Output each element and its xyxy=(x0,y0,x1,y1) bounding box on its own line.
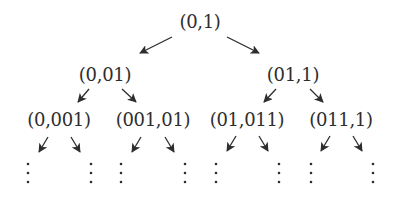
vertical-ellipsis-icon xyxy=(184,163,187,184)
arrow-icon xyxy=(71,137,80,152)
tree-node-label: (01,011) xyxy=(210,109,285,130)
arrow-icon xyxy=(227,37,259,53)
vertical-ellipsis-icon xyxy=(90,163,93,184)
vertical-ellipsis-icon xyxy=(372,163,375,184)
vertical-ellipsis-icon xyxy=(278,163,281,184)
tree-node-label: (001,01) xyxy=(116,109,191,130)
tree-diagram: (0,1)(0,01)(01,1)(0,001)(001,01)(01,011)… xyxy=(0,0,393,198)
arrow-icon xyxy=(132,137,141,152)
arrow-icon xyxy=(78,89,89,102)
vertical-ellipsis-icon xyxy=(120,163,123,184)
tree-node-label: (0,001) xyxy=(27,109,90,130)
arrow-icon xyxy=(310,89,323,102)
arrow-icon xyxy=(353,136,362,151)
tree-node-label: (01,1) xyxy=(267,64,319,85)
arrow-icon xyxy=(165,137,174,152)
tree-node-label: (0,01) xyxy=(79,64,131,85)
arrow-icon xyxy=(264,89,276,102)
tree-node-label: (0,1) xyxy=(179,11,220,32)
arrow-icon xyxy=(140,37,172,53)
vertical-ellipsis-icon xyxy=(310,163,313,184)
vertical-ellipsis-icon xyxy=(215,163,218,184)
vertical-ellipsis-icon xyxy=(27,163,30,184)
arrow-icon xyxy=(39,137,48,152)
arrow-icon xyxy=(321,136,330,151)
arrow-icon xyxy=(122,89,136,102)
arrow-icon xyxy=(227,136,236,151)
tree-node-label: (011,1) xyxy=(309,109,372,130)
arrow-icon xyxy=(259,136,268,151)
